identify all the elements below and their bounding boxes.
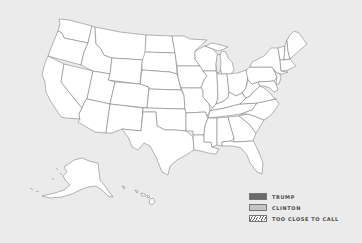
state-ak-islands [30,168,62,192]
state-hi[interactable] [122,186,155,205]
legend-item-trump: TRUMP [249,191,339,202]
legend-label-too-close: TOO CLOSE TO CALL [272,216,339,222]
legend-item-clinton: CLINTON [249,202,339,213]
state-co[interactable] [110,82,149,108]
state-ks[interactable] [147,89,185,109]
clinton-swatch [249,204,267,211]
legend-label-clinton: CLINTON [272,205,301,211]
state-nd[interactable] [145,35,175,53]
state-wy[interactable] [108,58,145,84]
state-fa[interactable] [222,141,263,174]
legend-label-trump: TRUMP [272,194,295,200]
too-close-swatch [249,215,267,222]
state-ma-ct-ri[interactable] [280,59,296,71]
legend-item-too-close: TOO CLOSE TO CALL [249,213,339,224]
map-legend: TRUMP CLINTON TOO CLOSE TO CALL [249,191,339,224]
lake-michigan [216,54,221,73]
trump-swatch [249,193,267,200]
state-mi[interactable] [219,51,234,74]
state-me[interactable] [287,31,307,59]
state-ak[interactable] [42,158,113,198]
state-nm[interactable] [106,104,143,133]
